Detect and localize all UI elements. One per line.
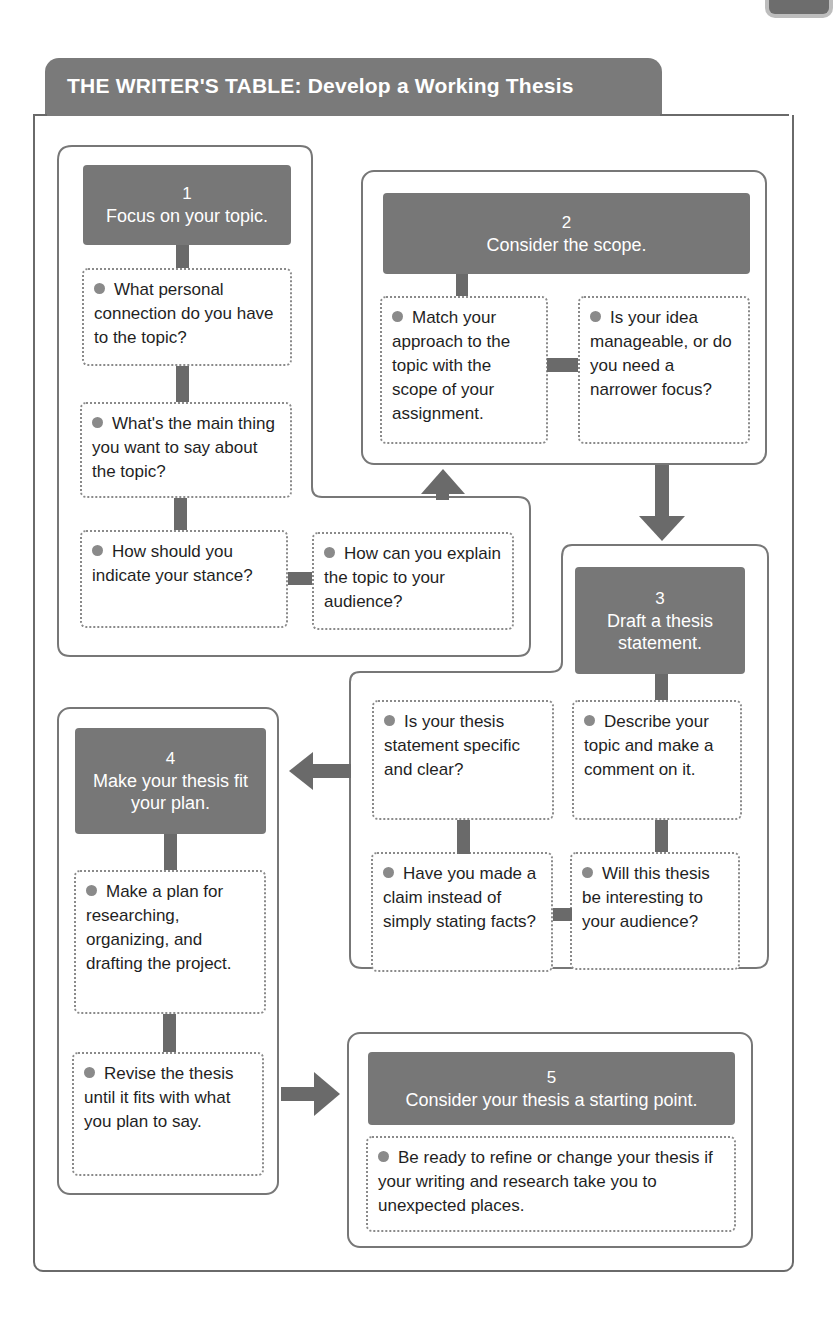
step-1-item-4: How can you explain the topic to your au… [312,532,514,630]
step-2-header: 2 Consider the scope. [383,193,750,274]
item-text: What personal connection do you have to … [94,280,274,347]
connector [164,834,177,872]
item-text: Will this thesis be interesting to your … [582,864,710,931]
step-4-header: 4 Make your thesis fit your plan. [75,728,266,834]
item-text: Is your idea manageable, or do you need … [590,308,732,399]
bullet-icon [92,417,103,428]
step-title: Draft a thesis statement. [575,610,745,654]
step-3-item-claim: Have you made a claim instead of simply … [371,852,553,972]
step-1-item-1: What personal connection do you have to … [82,268,292,366]
connector [174,498,187,532]
arrow-right-icon [281,1072,340,1116]
step-3-header: 3 Draft a thesis statement. [575,567,745,674]
item-text: Have you made a claim instead of simply … [383,864,536,931]
connector [547,358,579,372]
connector [288,572,314,585]
bullet-icon [383,867,394,878]
step-4-item-2: Revise the thesis until it fits with wha… [72,1052,264,1176]
item-text: Be ready to refine or change your thesis… [378,1148,713,1215]
step-title: Consider the scope. [486,234,646,256]
item-text: Revise the thesis until it fits with wha… [84,1064,233,1131]
step-number: 3 [655,588,664,610]
connector [552,908,572,921]
item-text: Make a plan for researching, organizing,… [86,882,232,973]
bullet-icon [584,715,595,726]
bullet-icon [582,867,593,878]
connector [163,1014,176,1054]
step-number: 2 [562,212,571,234]
item-text: Is your thesis statement specific and cl… [384,712,520,779]
connector [176,366,189,404]
item-text: How can you explain the topic to your au… [324,544,501,611]
step-3-item-specific: Is your thesis statement specific and cl… [372,700,554,820]
step-title: Consider your thesis a starting point. [405,1089,697,1111]
step-5-item-1: Be ready to refine or change your thesis… [366,1136,736,1232]
step-number: 1 [182,183,191,205]
bullet-icon [324,547,335,558]
step-1-item-3: How should you indicate your stance? [80,530,288,628]
connector [655,674,668,702]
step-2-item-1: Match your approach to the topic with th… [380,296,548,444]
step-2-item-2: Is your idea manageable, or do you need … [578,296,750,444]
step-4-item-1: Make a plan for researching, organizing,… [74,870,266,1014]
bullet-icon [384,715,395,726]
step-title: Focus on your topic. [106,205,268,227]
item-text: What's the main thing you want to say ab… [92,414,275,481]
step-1-header: 1 Focus on your topic. [83,165,291,245]
bullet-icon [92,545,103,556]
bullet-icon [392,311,403,322]
item-text: Describe your topic and make a comment o… [584,712,713,779]
step-title: Make your thesis fit your plan. [75,770,266,814]
bullet-icon [94,283,105,294]
bullet-icon [84,1067,95,1078]
bullet-icon [86,885,97,896]
connector [457,820,470,854]
connector [176,245,189,269]
step-5-header: 5 Consider your thesis a starting point. [368,1052,735,1125]
connector [655,820,668,854]
arrow-left-icon [289,752,351,790]
item-text: How should you indicate your stance? [92,542,253,585]
connector [456,274,468,298]
step-number: 5 [547,1067,556,1089]
step-number: 4 [166,748,175,770]
arrow-down-icon [639,465,685,541]
step-1-item-2: What's the main thing you want to say ab… [80,402,292,498]
item-text: Match your approach to the topic with th… [392,308,510,423]
step-3-item-describe: Describe your topic and make a comment o… [572,700,742,820]
bullet-icon [590,311,601,322]
step-3-item-interesting: Will this thesis be interesting to your … [570,852,740,970]
arrow-up-icon [421,469,465,500]
bullet-icon [378,1151,389,1162]
